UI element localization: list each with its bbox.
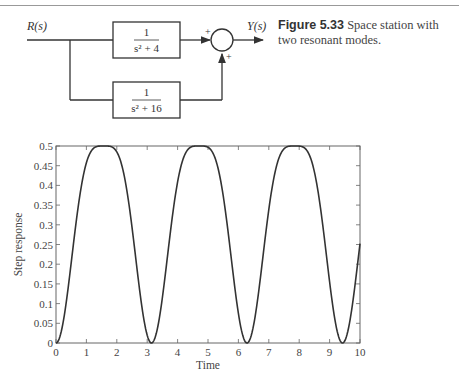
y-tick-label: 0.15 — [34, 278, 54, 290]
step-response-plot: 01234567891000.050.10.150.20.250.30.350.… — [12, 140, 366, 371]
sum-sign-top: + — [205, 26, 211, 37]
x-tick-label: 0 — [53, 346, 59, 358]
block-bottom-numerator: 1 — [144, 86, 150, 98]
x-tick-label: 9 — [327, 346, 333, 358]
x-tick-label: 10 — [355, 346, 367, 358]
y-tick-label: 0.3 — [39, 219, 53, 231]
y-tick-label: 0.05 — [34, 317, 54, 329]
x-tick-label: 4 — [175, 346, 181, 358]
y-tick-label: 0.45 — [34, 160, 54, 172]
y-tick-label: 0.4 — [39, 179, 53, 191]
step-response-curve — [56, 146, 360, 343]
y-axis-label: Step response — [12, 213, 25, 277]
input-label: R(s) — [26, 19, 47, 33]
y-tick-label: 0.5 — [39, 140, 53, 152]
x-tick-label: 6 — [236, 346, 242, 358]
block-bottom-denominator: s² + 16 — [131, 102, 162, 114]
figure-label: Figure 5.33 — [278, 18, 344, 32]
y-tick-label: 0 — [48, 337, 54, 349]
x-tick-label: 1 — [84, 346, 90, 358]
x-axis-label: Time — [196, 359, 220, 371]
y-tick-label: 0.35 — [34, 199, 54, 211]
figure-canvas: R(s) Y(s) 1 s² + 4 1 s² + 16 + + 0123456… — [0, 0, 459, 371]
output-label: Y(s) — [247, 19, 266, 33]
x-tick-label: 3 — [144, 346, 150, 358]
y-tick-label: 0.2 — [39, 258, 53, 270]
block-top-numerator: 1 — [144, 26, 150, 38]
summing-junction — [211, 29, 233, 51]
block-top-denominator: s² + 4 — [134, 42, 159, 54]
x-tick-label: 7 — [266, 346, 272, 358]
y-tick-label: 0.1 — [39, 298, 53, 310]
y-tick-label: 0.25 — [34, 239, 54, 251]
x-tick-label: 5 — [205, 346, 211, 358]
figure-caption: Figure 5.33 Space station with two reson… — [278, 18, 458, 48]
x-tick-label: 8 — [296, 346, 302, 358]
sum-sign-bottom: + — [226, 51, 232, 62]
x-tick-label: 2 — [114, 346, 120, 358]
